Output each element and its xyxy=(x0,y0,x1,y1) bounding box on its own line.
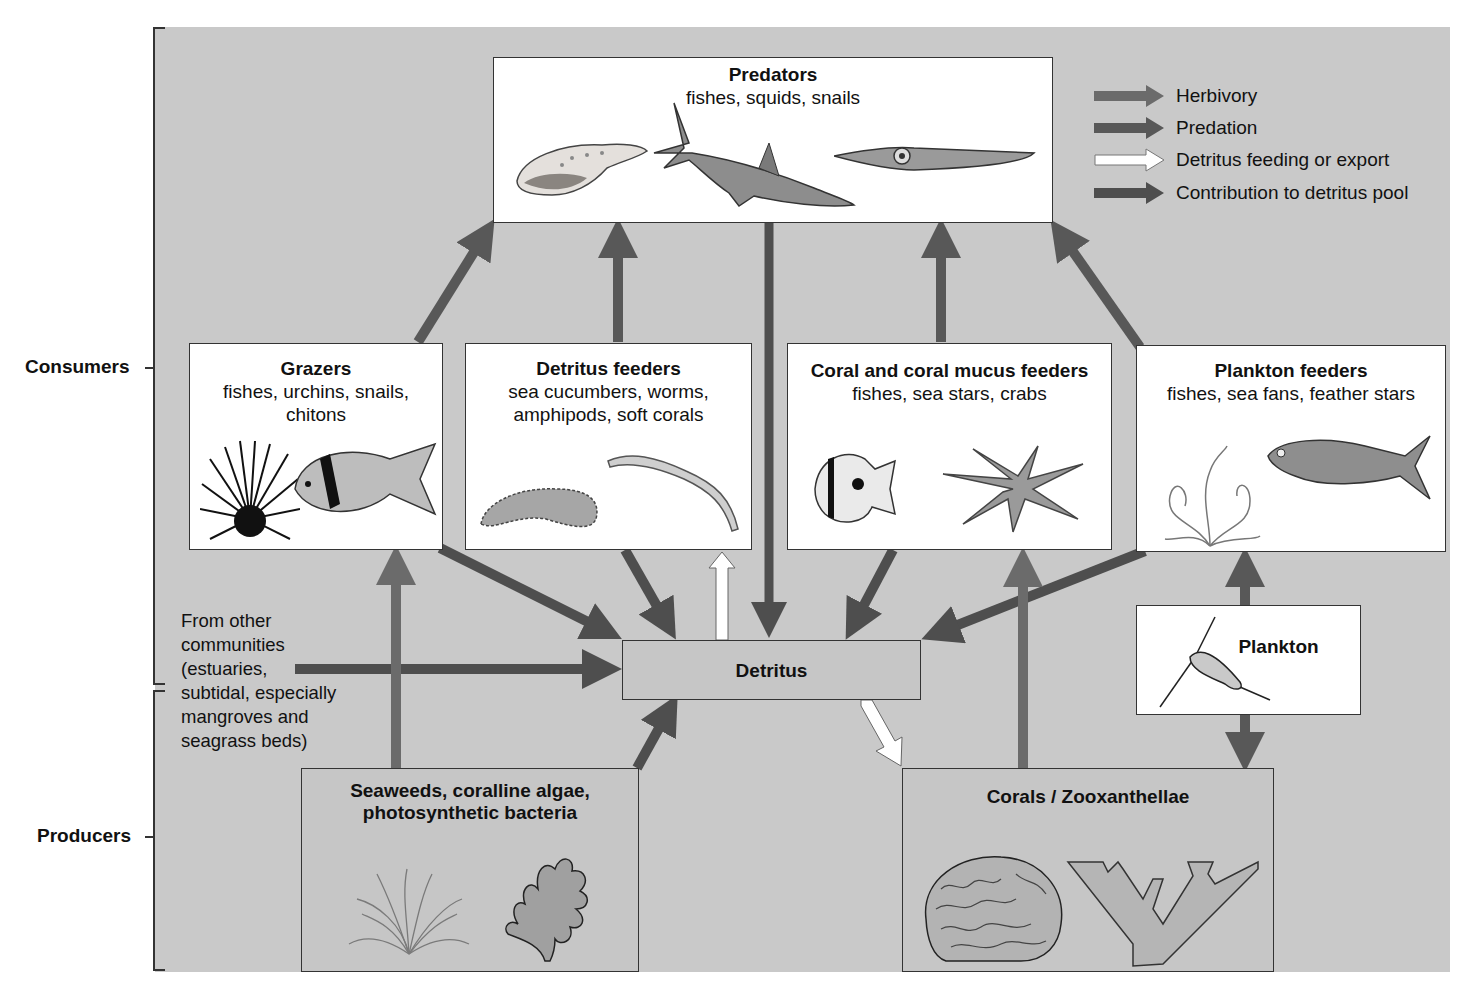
seaweed-icon xyxy=(347,864,472,959)
predators-title: Predators xyxy=(494,64,1052,86)
detritus-feeders-subtitle-2: amphipods, soft corals xyxy=(466,403,751,426)
herbivory-arrow-icon xyxy=(1094,84,1166,108)
plankton-feeders-box: Plankton feeders fishes, sea fans, feath… xyxy=(1136,345,1446,552)
arrow-grazers-to-predators xyxy=(418,236,484,342)
plankton-box: Plankton xyxy=(1136,605,1361,715)
seaweeds-title-1: Seaweeds, coralline algae, xyxy=(302,780,638,802)
fish-icon xyxy=(1265,431,1435,501)
arrow-plankton-feeders-to-detritus xyxy=(940,551,1145,632)
grazers-subtitle-1: fishes, urchins, snails, xyxy=(190,380,442,403)
contribution-arrow-icon xyxy=(1094,181,1166,205)
plankton-feeders-subtitle: fishes, sea fans, feather stars xyxy=(1137,382,1445,405)
detritus-feeders-title: Detritus feeders xyxy=(466,358,751,380)
predation-arrow-icon xyxy=(1094,116,1166,140)
copepod-icon xyxy=(1145,612,1275,712)
detritus-feeders-subtitle-1: sea cucumbers, worms, xyxy=(466,380,751,403)
grazers-title: Grazers xyxy=(190,358,442,380)
coralline-algae-icon xyxy=(500,849,595,964)
detritus-title: Detritus xyxy=(623,660,920,682)
surgeonfish-icon xyxy=(290,439,440,524)
arrow-detritus-feeders-to-detritus xyxy=(625,550,666,622)
arrow-grazers-to-detritus xyxy=(440,548,604,630)
predators-box: Predators fishes, squids, snails xyxy=(493,57,1053,223)
sea-urchin-icon xyxy=(200,439,300,544)
butterflyfish-icon xyxy=(810,439,900,529)
external-source-text: From other communities (estuaries, subti… xyxy=(181,609,336,753)
legend-label: Contribution to detritus pool xyxy=(1176,182,1408,204)
squid-icon xyxy=(834,138,1039,188)
legend-detritus-feeding: Detritus feeding or export xyxy=(1094,148,1389,172)
arrow-seaweeds-to-detritus xyxy=(637,712,668,768)
detritus-feeders-box: Detritus feeders sea cucumbers, worms, a… xyxy=(465,343,752,550)
legend-label: Detritus feeding or export xyxy=(1176,149,1389,171)
arrow-coral-feeders-to-detritus xyxy=(855,550,893,622)
shark-icon xyxy=(644,98,859,208)
external-source-line: communities xyxy=(181,633,336,657)
arrow-detritus-to-corals xyxy=(861,700,902,766)
external-source-line: mangroves and xyxy=(181,705,336,729)
corals-title: Corals / Zooxanthellae xyxy=(903,786,1273,808)
arrow-plankton-feeders-to-predators xyxy=(1062,236,1140,347)
brain-coral-icon xyxy=(921,849,1066,964)
legend-herbivory: Herbivory xyxy=(1094,84,1257,108)
legend-predation: Predation xyxy=(1094,116,1257,140)
detritus-box: Detritus xyxy=(622,640,921,700)
seaweeds-box: Seaweeds, coralline algae, photosyntheti… xyxy=(301,768,639,972)
crown-of-thorns-starfish-icon xyxy=(933,444,1093,534)
detritus-feeding-arrow-icon xyxy=(1094,148,1166,172)
worm-icon xyxy=(606,449,746,534)
plankton-feeders-title: Plankton feeders xyxy=(1137,360,1445,382)
grazers-box: Grazers fishes, urchins, snails, chitons xyxy=(189,343,443,550)
grazers-subtitle-2: chitons xyxy=(190,403,442,426)
legend-label: Herbivory xyxy=(1176,85,1257,107)
feather-star-icon xyxy=(1155,441,1265,551)
coral-feeders-subtitle: fishes, sea stars, crabs xyxy=(788,382,1111,405)
external-source-line: From other xyxy=(181,609,336,633)
coral-feeders-box: Coral and coral mucus feeders fishes, se… xyxy=(787,343,1112,550)
arrow-detritus-to-detritus-feeders xyxy=(709,552,735,640)
external-source-line: (estuaries, xyxy=(181,657,336,681)
legend-label: Predation xyxy=(1176,117,1257,139)
seaweeds-title-2: photosynthetic bacteria xyxy=(302,802,638,824)
sea-cucumber-icon xyxy=(476,479,606,534)
branching-coral-icon xyxy=(1063,854,1263,969)
snail-shell-icon xyxy=(512,133,652,203)
legend-contribution: Contribution to detritus pool xyxy=(1094,181,1408,205)
external-source-line: seagrass beds) xyxy=(181,729,336,753)
coral-feeders-title: Coral and coral mucus feeders xyxy=(788,360,1111,382)
external-source-line: subtidal, especially xyxy=(181,681,336,705)
corals-box: Corals / Zooxanthellae xyxy=(902,768,1274,972)
